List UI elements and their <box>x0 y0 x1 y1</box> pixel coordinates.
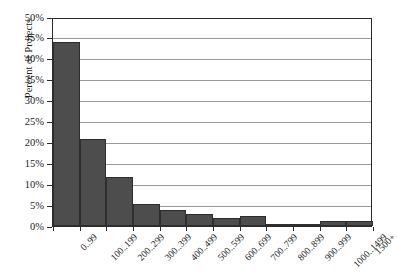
bar-1000..1499 <box>320 221 347 226</box>
gridline-30% <box>53 101 371 102</box>
x-tick-mark <box>80 227 81 231</box>
gridline-50% <box>53 18 371 19</box>
bar-100..199 <box>80 139 107 226</box>
x-tick-label: 500..599 <box>216 232 247 263</box>
plot-area <box>52 18 372 228</box>
bar-800..899 <box>266 224 293 226</box>
x-tick-mark <box>106 227 107 231</box>
gridline-35% <box>53 80 371 81</box>
x-tick-label: 400..499 <box>189 232 220 263</box>
x-tick-label: 300..399 <box>163 232 194 263</box>
y-tick-label: 15% <box>25 159 44 170</box>
bar-1500+ <box>346 221 373 226</box>
x-tick-label: 900..999 <box>323 232 354 263</box>
bar-400..499 <box>160 210 187 226</box>
x-tick-mark <box>320 227 321 231</box>
gridline-45% <box>53 38 371 39</box>
x-tick-mark <box>346 227 347 231</box>
bar-300..399 <box>133 204 160 226</box>
y-tick-label: 10% <box>25 180 44 191</box>
bar-500..599 <box>186 214 213 226</box>
x-tick-mark <box>133 227 134 231</box>
x-tick-label: 600..699 <box>243 232 274 263</box>
x-tick-mark <box>186 227 187 231</box>
bar-600..699 <box>213 218 240 226</box>
x-tick-mark <box>240 227 241 231</box>
bar-700..799 <box>240 216 267 226</box>
x-tick-mark <box>213 227 214 231</box>
x-tick-label: 700..799 <box>269 232 300 263</box>
x-tick-mark <box>373 227 374 231</box>
y-tick-label: 0% <box>30 222 44 233</box>
y-tick-label: 20% <box>25 138 44 149</box>
bar-0..99 <box>53 42 80 226</box>
gridline-40% <box>53 59 371 60</box>
x-tick-mark <box>266 227 267 231</box>
y-axis-title: Percent of Projects <box>23 0 34 139</box>
x-tick-mark <box>160 227 161 231</box>
y-tick-mark <box>47 227 52 228</box>
x-tick-label: 100..199 <box>109 232 140 263</box>
x-tick-label: 200..299 <box>136 232 167 263</box>
bar-900..999 <box>293 224 320 226</box>
x-axis-labels: 0..99100..199200..299300..399400..499500… <box>52 232 382 275</box>
x-tick-mark <box>53 227 54 231</box>
x-tick-mark <box>293 227 294 231</box>
bar-200..299 <box>106 177 133 226</box>
gridline-25% <box>53 122 371 123</box>
x-tick-label: 0..99 <box>78 232 99 253</box>
x-tick-label: 800..899 <box>296 232 327 263</box>
y-tick-label: 5% <box>30 201 44 212</box>
